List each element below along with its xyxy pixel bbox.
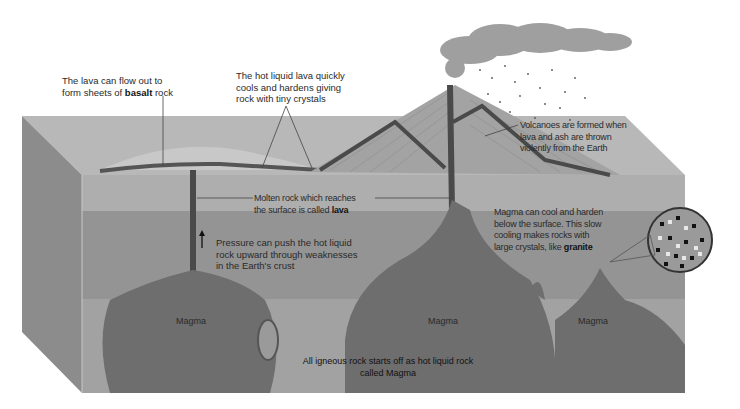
granite-line4-pre: large crystals, like <box>494 242 564 252</box>
magma-label-center: Magma <box>428 316 458 328</box>
tiny-crystals-line2: cools and hardens giving <box>236 82 345 94</box>
annotation-basalt: The lava can flow out to form sheets of … <box>62 75 173 98</box>
lava-term: lava <box>332 205 349 215</box>
front-layer-upper <box>82 175 685 211</box>
basalt-term: basalt <box>125 87 152 98</box>
magma-label-left: Magma <box>176 316 206 328</box>
granite-line4: large crystals, like granite <box>494 242 603 254</box>
pressure-line1: Pressure can push the hot liquid <box>216 237 358 249</box>
granite-line3: cooling makes rocks with <box>494 230 603 242</box>
basalt-line2-post: rock <box>152 87 173 98</box>
basalt-line1: The lava can flow out to <box>62 75 173 87</box>
volcanoes-line1: Volcanoes are formed when <box>520 120 627 132</box>
granite-term: granite <box>564 242 593 252</box>
annotation-pressure: Pressure can push the hot liquid rock up… <box>216 237 358 272</box>
annotation-tiny-crystals: The hot liquid lava quickly cools and ha… <box>236 70 345 105</box>
magma-label-right: Magma <box>578 316 608 328</box>
smoke-cloud <box>440 23 632 78</box>
granite-line1: Magma can cool and harden <box>494 207 603 219</box>
pressure-line2: rock upward through weaknesses <box>216 249 358 261</box>
annotation-lava: Molten rock which reaches the surface is… <box>254 193 356 216</box>
volcanoes-line3: violently from the Earth <box>520 143 627 155</box>
tiny-crystals-line3: rock with tiny crystals <box>236 93 345 105</box>
tiny-crystals-line1: The hot liquid lava quickly <box>236 70 345 82</box>
left-vent <box>190 170 196 280</box>
igneous-line2: called Magma <box>278 368 498 380</box>
volcano-main-vent <box>450 85 452 210</box>
basalt-line2: form sheets of basalt rock <box>62 87 173 99</box>
lava-line2: the surface is called lava <box>254 205 356 217</box>
annotation-volcanoes: Volcanoes are formed when lava and ash a… <box>520 120 627 155</box>
annotation-granite: Magma can cool and harden below the surf… <box>494 207 603 253</box>
lava-line2-pre: the surface is called <box>254 205 332 215</box>
igneous-line1: All igneous rock starts off as hot liqui… <box>278 356 498 368</box>
basalt-line2-pre: form sheets of <box>62 87 125 98</box>
annotation-igneous: All igneous rock starts off as hot liqui… <box>278 356 498 379</box>
pressure-line3: in the Earth's crust <box>216 260 358 272</box>
igneous-rock-diagram <box>0 0 740 409</box>
granite-line2: below the surface. This slow <box>494 219 603 231</box>
volcanoes-line2: lava and ash are thrown <box>520 132 627 144</box>
lava-line1: Molten rock which reaches <box>254 193 356 205</box>
